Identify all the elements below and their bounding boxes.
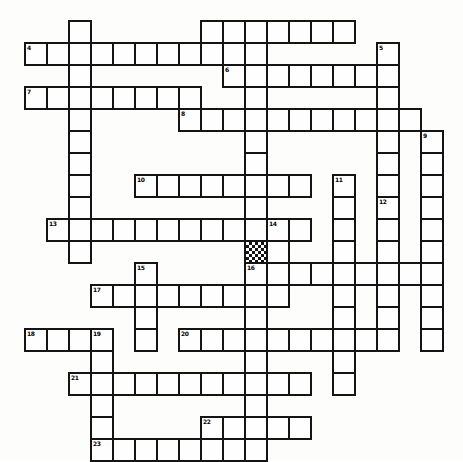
crossword-cell[interactable] [222, 108, 246, 132]
crossword-cell[interactable] [376, 64, 400, 88]
crossword-cell[interactable] [266, 328, 290, 352]
crossword-cell[interactable] [244, 42, 268, 66]
crossword-cell[interactable]: 17 [90, 284, 114, 308]
crossword-cell[interactable] [332, 196, 356, 220]
crossword-cell[interactable] [244, 416, 268, 440]
crossword-cell[interactable]: 16 [244, 262, 268, 286]
crossword-cell[interactable] [420, 306, 444, 330]
crossword-cell[interactable] [244, 174, 268, 198]
crossword-cell[interactable] [244, 328, 268, 352]
crossword-cell[interactable] [200, 20, 224, 44]
crossword-cell[interactable] [288, 372, 312, 396]
crossword-cell[interactable] [354, 328, 378, 352]
crossword-cell[interactable] [288, 262, 312, 286]
crossword-cell[interactable] [134, 284, 158, 308]
crossword-cell[interactable] [156, 372, 180, 396]
crossword-cell[interactable] [288, 328, 312, 352]
crossword-cell[interactable] [244, 130, 268, 154]
crossword-cell[interactable] [68, 218, 92, 242]
crossword-cell[interactable] [200, 438, 224, 462]
crossword-cell[interactable] [222, 174, 246, 198]
crossword-cell[interactable] [288, 174, 312, 198]
crossword-cell[interactable] [420, 284, 444, 308]
crossword-cell[interactable] [222, 218, 246, 242]
crossword-cell[interactable] [200, 218, 224, 242]
crossword-cell[interactable] [156, 174, 180, 198]
crossword-cell[interactable]: 13 [46, 218, 70, 242]
crossword-cell[interactable] [134, 42, 158, 66]
crossword-cell[interactable] [266, 108, 290, 132]
crossword-cell[interactable] [354, 108, 378, 132]
crossword-cell[interactable] [222, 20, 246, 44]
crossword-cell[interactable] [288, 416, 312, 440]
crossword-cell[interactable] [420, 152, 444, 176]
crossword-cell[interactable] [46, 86, 70, 110]
crossword-cell[interactable] [112, 42, 136, 66]
crossword-cell[interactable] [90, 372, 114, 396]
crossword-cell[interactable] [420, 240, 444, 264]
crossword-cell[interactable] [112, 218, 136, 242]
crossword-cell[interactable] [244, 284, 268, 308]
crossword-cell[interactable] [244, 20, 268, 44]
crossword-cell[interactable] [156, 218, 180, 242]
crossword-cell[interactable]: 8 [178, 108, 202, 132]
crossword-cell[interactable] [90, 394, 114, 418]
crossword-cell[interactable] [332, 328, 356, 352]
crossword-cell[interactable] [332, 350, 356, 374]
crossword-cell[interactable] [266, 240, 290, 264]
crossword-cell[interactable] [288, 20, 312, 44]
crossword-cell[interactable]: 22 [200, 416, 224, 440]
crossword-cell[interactable] [156, 86, 180, 110]
crossword-cell[interactable] [134, 306, 158, 330]
crossword-cell[interactable] [244, 196, 268, 220]
crossword-cell[interactable] [244, 152, 268, 176]
crossword-cell[interactable] [376, 284, 400, 308]
crossword-cell[interactable] [90, 86, 114, 110]
crossword-cell[interactable] [244, 438, 268, 462]
crossword-cell[interactable] [354, 64, 378, 88]
crossword-cell[interactable] [244, 218, 268, 242]
crossword-cell[interactable]: 11 [332, 174, 356, 198]
crossword-cell[interactable] [222, 328, 246, 352]
crossword-cell[interactable] [420, 262, 444, 286]
crossword-cell[interactable] [68, 240, 92, 264]
crossword-cell[interactable] [332, 306, 356, 330]
crossword-cell[interactable] [244, 86, 268, 110]
crossword-cell[interactable] [178, 218, 202, 242]
crossword-cell[interactable] [332, 20, 356, 44]
crossword-cell[interactable] [376, 152, 400, 176]
crossword-cell[interactable] [288, 108, 312, 132]
crossword-cell[interactable] [200, 174, 224, 198]
crossword-cell[interactable] [46, 42, 70, 66]
crossword-cell[interactable] [398, 262, 422, 286]
crossword-cell[interactable] [244, 372, 268, 396]
crossword-cell[interactable] [376, 108, 400, 132]
crossword-cell[interactable] [310, 328, 334, 352]
crossword-cell[interactable] [112, 86, 136, 110]
crossword-cell[interactable] [68, 328, 92, 352]
crossword-cell[interactable] [90, 350, 114, 374]
crossword-cell[interactable] [244, 350, 268, 374]
crossword-cell[interactable]: 23 [90, 438, 114, 462]
crossword-cell[interactable] [222, 372, 246, 396]
crossword-cell[interactable]: 20 [178, 328, 202, 352]
crossword-cell[interactable] [266, 284, 290, 308]
crossword-cell[interactable] [200, 284, 224, 308]
crossword-cell[interactable] [420, 328, 444, 352]
crossword-cell[interactable] [376, 174, 400, 198]
crossword-cell[interactable]: 19 [90, 328, 114, 352]
crossword-cell[interactable] [332, 108, 356, 132]
crossword-cell[interactable] [420, 196, 444, 220]
crossword-cell[interactable]: 18 [24, 328, 48, 352]
crossword-cell[interactable] [310, 64, 334, 88]
crossword-cell[interactable] [156, 438, 180, 462]
crossword-cell[interactable] [112, 438, 136, 462]
crossword-cell[interactable] [156, 284, 180, 308]
crossword-cell[interactable] [376, 130, 400, 154]
crossword-cell[interactable] [178, 174, 202, 198]
crossword-cell[interactable] [200, 372, 224, 396]
crossword-cell[interactable] [134, 328, 158, 352]
crossword-cell[interactable] [222, 416, 246, 440]
crossword-cell[interactable] [266, 372, 290, 396]
crossword-cell[interactable] [354, 262, 378, 286]
